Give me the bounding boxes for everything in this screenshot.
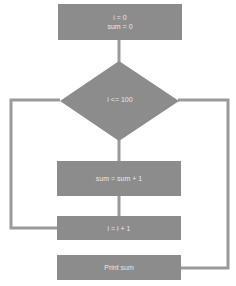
edge-cond-to-output	[178, 100, 228, 268]
decision-label: i <= 100	[92, 96, 148, 103]
accumulate-box: sum = sum + 1	[57, 161, 181, 196]
init-line-1: i = 0	[113, 13, 126, 22]
init-line-2: sum = 0	[107, 22, 132, 31]
accumulate-label: sum = sum + 1	[96, 174, 142, 183]
increment-label: i = i + 1	[108, 224, 131, 233]
edge-loop-back	[11, 100, 60, 228]
init-box: i = 0 sum = 0	[58, 4, 182, 40]
output-box: Print sum	[57, 255, 181, 280]
output-label: Print sum	[104, 263, 134, 272]
increment-box: i = i + 1	[57, 216, 181, 240]
connector-lines	[0, 0, 236, 286]
